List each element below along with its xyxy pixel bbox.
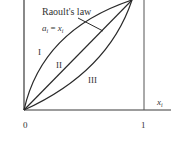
region-III-label: III <box>88 75 97 85</box>
raoult-law-label: Raoult's law <box>42 6 92 17</box>
region-I-label: I <box>38 47 41 57</box>
tick-0: 0 <box>23 120 28 130</box>
tick-1: 1 <box>141 120 146 130</box>
equation-label: ai = xi <box>42 23 64 34</box>
region-II-label: II <box>56 60 62 70</box>
x-axis-label: xi <box>156 97 163 108</box>
raoult-diagram: Raoult's law ai = xi I II III xi 0 1 <box>0 0 173 151</box>
